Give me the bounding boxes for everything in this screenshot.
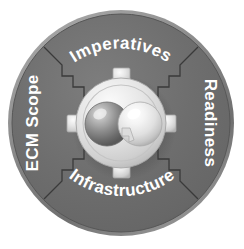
- quadrant-label-ecm-scope: ECM Scope: [23, 74, 42, 171]
- ecm-framework-diagram: Imperatives Infrastructure Readiness ECM…: [0, 0, 244, 249]
- sphere-right: [118, 102, 162, 146]
- quadrant-label-readiness: Readiness: [201, 79, 220, 168]
- framework-wheel-graphic: Imperatives Infrastructure Readiness ECM…: [0, 0, 244, 249]
